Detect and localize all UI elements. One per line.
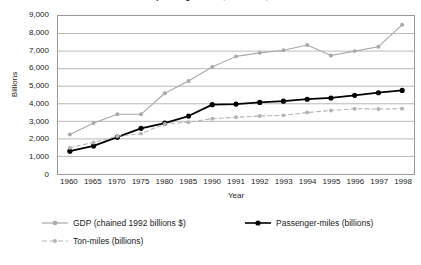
data-point bbox=[281, 48, 285, 52]
x-axis-tick: 1991 bbox=[227, 177, 245, 187]
data-point bbox=[400, 23, 404, 27]
series-passenger-miles-billions bbox=[67, 88, 404, 154]
legend-swatch-gdp-icon bbox=[42, 218, 68, 228]
data-point bbox=[376, 90, 381, 95]
x-axis-tick: 1996 bbox=[346, 177, 364, 187]
x-axis-tick: 1960 bbox=[60, 177, 78, 187]
data-point bbox=[400, 88, 405, 93]
data-point bbox=[329, 108, 333, 112]
legend-item-passenger-miles: Passenger-miles (billions) bbox=[245, 217, 373, 229]
legend-swatch-passenger-miles-icon bbox=[245, 218, 271, 228]
data-point bbox=[305, 43, 309, 47]
y-axis-tick: 8,000 bbox=[29, 29, 49, 37]
data-point bbox=[68, 146, 72, 150]
y-axis-tick: 0 bbox=[45, 171, 49, 179]
chart-title: Growth in passenger-miles, ton-miles, an… bbox=[60, 0, 360, 1]
y-axis-tick: 4,000 bbox=[29, 100, 49, 108]
data-point bbox=[138, 126, 143, 131]
data-point bbox=[234, 54, 238, 58]
legend-swatch-ton-miles-icon bbox=[42, 236, 68, 246]
data-point bbox=[353, 49, 357, 53]
data-point bbox=[115, 134, 119, 138]
data-point bbox=[92, 121, 96, 125]
data-point bbox=[352, 93, 357, 98]
x-axis-tick: 1975 bbox=[132, 177, 150, 187]
data-point bbox=[186, 113, 191, 118]
legend-item-ton-miles: Ton-miles (billions) bbox=[42, 235, 143, 247]
plot-area bbox=[57, 15, 415, 175]
data-point bbox=[187, 120, 191, 124]
x-axis-tick: 1985 bbox=[179, 177, 197, 187]
data-point bbox=[400, 107, 404, 111]
legend-label-gdp: GDP (chained 1992 billions $) bbox=[73, 218, 186, 228]
data-point bbox=[281, 99, 286, 104]
x-axis-tick: 1993 bbox=[275, 177, 293, 187]
data-point bbox=[187, 79, 191, 83]
data-point bbox=[210, 117, 214, 121]
legend-label-ton-miles: Ton-miles (billions) bbox=[73, 236, 143, 246]
chart-container: Growth in passenger-miles, ton-miles, an… bbox=[0, 0, 421, 265]
x-axis-tick: 1980 bbox=[155, 177, 173, 187]
series-gdp-chained-1992-billions bbox=[68, 23, 404, 137]
y-axis-tick: 6,000 bbox=[29, 64, 49, 72]
x-axis-tick: 1997 bbox=[370, 177, 388, 187]
data-point bbox=[163, 91, 167, 95]
data-point bbox=[305, 97, 310, 102]
data-point bbox=[210, 65, 214, 69]
data-point bbox=[258, 51, 262, 55]
x-axis-tick: 1970 bbox=[108, 177, 126, 187]
chart-plot-svg bbox=[58, 16, 414, 174]
y-axis-tick: 3,000 bbox=[29, 118, 49, 126]
y-axis-tick: 5,000 bbox=[29, 82, 49, 90]
data-point bbox=[139, 132, 143, 136]
y-axis-tick-labels: 9,0008,0007,0006,0005,0004,0003,0002,000… bbox=[8, 15, 52, 175]
data-point bbox=[68, 133, 72, 137]
data-point bbox=[329, 54, 333, 58]
x-axis-title: Year bbox=[57, 191, 415, 200]
data-point bbox=[353, 107, 357, 111]
data-point bbox=[234, 115, 238, 119]
data-point bbox=[210, 102, 215, 107]
data-point bbox=[281, 113, 285, 117]
x-axis-tick: 1965 bbox=[84, 177, 102, 187]
x-axis-tick: 1990 bbox=[203, 177, 221, 187]
data-point bbox=[115, 112, 119, 116]
x-axis-tick: 1994 bbox=[299, 177, 317, 187]
data-point bbox=[305, 111, 309, 115]
chart-legend: GDP (chained 1992 billions $) Passenger-… bbox=[40, 216, 410, 256]
y-axis-tick: 9,000 bbox=[29, 11, 49, 19]
x-axis-tick: 1992 bbox=[251, 177, 269, 187]
y-axis-tick: 7,000 bbox=[29, 47, 49, 55]
legend-item-gdp: GDP (chained 1992 billions $) bbox=[42, 217, 186, 229]
data-point bbox=[163, 122, 167, 126]
legend-label-passenger-miles: Passenger-miles (billions) bbox=[276, 218, 373, 228]
data-point bbox=[328, 95, 333, 100]
x-axis-tick-labels: 1960196519701975198019851990199119921993… bbox=[57, 177, 415, 189]
data-point bbox=[139, 112, 143, 116]
data-point bbox=[376, 107, 380, 111]
y-axis-tick: 1,000 bbox=[29, 153, 49, 161]
data-point bbox=[92, 140, 96, 144]
data-point bbox=[258, 114, 262, 118]
data-point bbox=[376, 45, 380, 49]
x-axis-tick: 1998 bbox=[394, 177, 412, 187]
y-axis-tick: 2,000 bbox=[29, 135, 49, 143]
x-axis-tick: 1995 bbox=[323, 177, 341, 187]
data-point bbox=[233, 102, 238, 107]
data-point bbox=[257, 100, 262, 105]
